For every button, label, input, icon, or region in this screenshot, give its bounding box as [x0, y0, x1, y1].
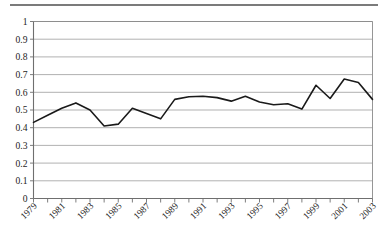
y-tick-label: 0.8 [16, 51, 28, 62]
series-polyline [34, 79, 373, 126]
y-tick-label: 0.1 [16, 175, 28, 186]
x-tick-label: 1989 [160, 201, 181, 222]
x-tick-label: 1993 [216, 201, 237, 222]
x-tick-label: 1985 [103, 201, 124, 222]
line-chart-figure: 00.10.20.30.40.50.60.70.80.91 1979198119… [0, 0, 388, 242]
x-axis-ticks [34, 199, 373, 203]
x-tick-label: 1981 [47, 201, 68, 222]
x-tick-label: 1979 [19, 201, 40, 222]
x-tick-label: 1999 [301, 201, 322, 222]
x-tick-label: 1983 [75, 201, 96, 222]
y-tick-label: 0.3 [16, 140, 28, 151]
y-tick-label: 1 [23, 16, 28, 27]
x-tick-label: 1987 [132, 201, 153, 222]
y-tick-label: 0.7 [16, 69, 28, 80]
data-series-line [34, 79, 373, 126]
x-tick-label: 2003 [358, 201, 379, 222]
y-tick-label: 0.4 [16, 122, 28, 133]
x-tick-label: 1997 [273, 201, 294, 222]
y-axis-tick-labels: 00.10.20.30.40.50.60.70.80.91 [16, 16, 28, 204]
y-tick-label: 0.9 [16, 34, 28, 45]
y-tick-label: 0.5 [16, 104, 28, 115]
chart-page: 00.10.20.30.40.50.60.70.80.91 1979198119… [0, 0, 388, 242]
x-tick-label: 1991 [188, 201, 209, 222]
chart-canvas: 00.10.20.30.40.50.60.70.80.91 1979198119… [0, 0, 388, 242]
y-tick-label: 0.2 [16, 158, 28, 169]
y-grid-lines [34, 22, 373, 199]
x-axis-tick-labels: 1979198119831985198719891991199319951997… [19, 201, 379, 222]
x-tick-label: 1995 [245, 201, 266, 222]
y-tick-label: 0 [23, 193, 28, 204]
x-tick-label: 2001 [329, 201, 350, 222]
y-tick-label: 0.6 [16, 87, 28, 98]
